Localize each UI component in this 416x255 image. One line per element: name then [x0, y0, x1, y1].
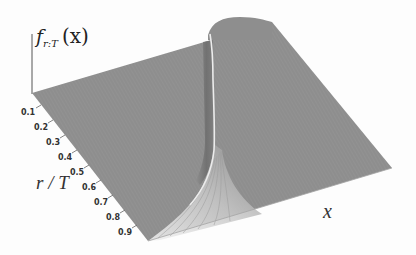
tick-label: 0.2 — [34, 123, 48, 132]
x-axis-label: x — [323, 200, 332, 223]
tick-label: 0.4 — [58, 153, 72, 162]
surface-plot: fr:T(x) 0.1 0.2 0.3 0.4 0.5 0.6 0.7 0.8 … — [0, 0, 416, 255]
tick-label: 0.8 — [106, 213, 120, 222]
r-axis-label: r / T — [36, 172, 69, 194]
tick-label: 0.6 — [82, 183, 96, 192]
surface-ridge-top — [208, 17, 272, 40]
tick-label: 0.1 — [21, 108, 35, 117]
z-axis-title: fr:T(x) — [36, 24, 89, 49]
tick-label: 0.3 — [46, 138, 60, 147]
tick-label: 0.7 — [94, 198, 108, 207]
tick-label: 0.5 — [70, 168, 84, 177]
tick-label: 0.9 — [118, 228, 132, 237]
